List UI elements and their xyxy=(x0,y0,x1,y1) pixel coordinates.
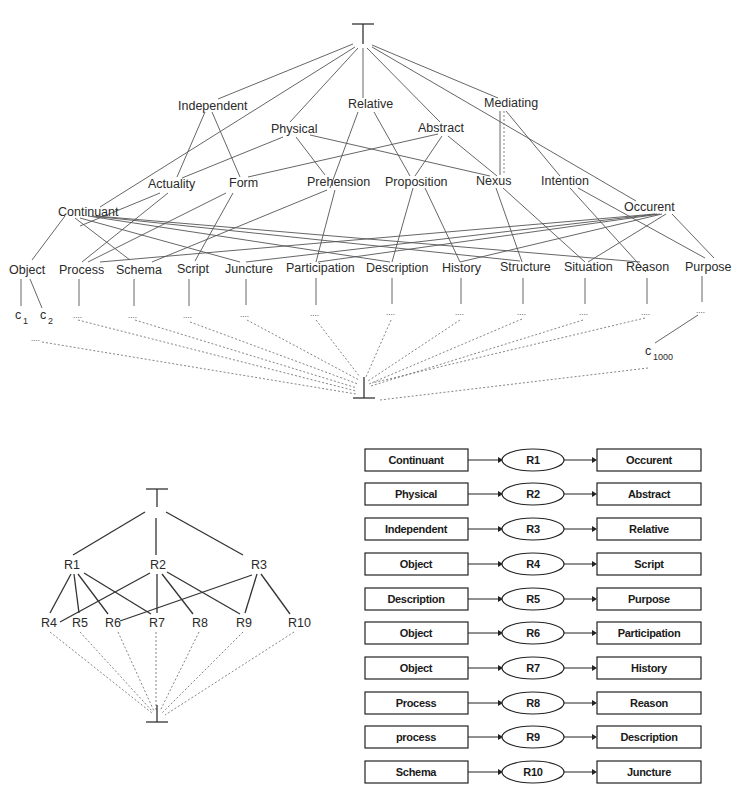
relation-top-symbol xyxy=(146,489,168,507)
relation-id: R8 xyxy=(526,697,540,709)
relation-id: R1 xyxy=(526,454,540,466)
node-structure: Structure xyxy=(500,260,551,274)
node-object: Object xyxy=(9,263,46,277)
svg-text:....: .... xyxy=(517,308,526,317)
svg-text:1000: 1000 xyxy=(653,352,673,362)
relation-target: History xyxy=(631,662,668,674)
relation-target: Abstract xyxy=(628,488,671,500)
svg-text:....: .... xyxy=(73,311,82,320)
svg-text:....: .... xyxy=(455,308,464,317)
relation-source: Description xyxy=(387,593,445,605)
relation-node-r8: R8 xyxy=(192,616,208,630)
bottom-symbol xyxy=(353,377,375,398)
instance-ellipses: .... .... .... .... .... .... .... .... … xyxy=(31,306,705,343)
node-description: Description xyxy=(366,261,429,275)
svg-text:....: .... xyxy=(183,311,192,320)
relation-row: Continuant R1 Occurent xyxy=(365,449,701,471)
relation-id: R9 xyxy=(526,731,540,743)
diagram-canvas: Independent Relative Mediating Physical … xyxy=(0,0,741,802)
node-occurent: Occurent xyxy=(624,200,675,214)
relation-row: process R9 Description xyxy=(365,726,701,748)
svg-text:....: .... xyxy=(696,306,705,315)
node-script: Script xyxy=(177,262,209,276)
node-participation: Participation xyxy=(286,261,355,275)
upper-lattice: Independent Relative Mediating Physical … xyxy=(9,24,732,400)
instance-c2: c 2 xyxy=(40,308,53,326)
relation-id: R2 xyxy=(526,488,540,500)
relation-source: Independent xyxy=(385,523,448,535)
svg-text:....: .... xyxy=(31,334,40,343)
relation-node-r6: R6 xyxy=(105,616,121,630)
relation-target: Participation xyxy=(618,627,681,639)
relation-row: Object R4 Script xyxy=(365,553,701,575)
node-prehension: Prehension xyxy=(307,175,370,189)
svg-text:c: c xyxy=(15,308,21,322)
instance-c1000: c 1000 xyxy=(645,344,673,362)
node-process: Process xyxy=(59,263,104,277)
svg-text:....: .... xyxy=(128,311,137,320)
top-symbol xyxy=(352,24,374,44)
relation-source: process xyxy=(396,731,436,743)
relation-row: Schema R10 Juncture xyxy=(365,761,701,783)
mid-edges xyxy=(177,111,705,272)
relation-target: Script xyxy=(634,558,664,570)
relation-source: Object xyxy=(400,558,433,570)
relation-source: Object xyxy=(400,627,433,639)
svg-text:2: 2 xyxy=(48,316,53,326)
node-independent: Independent xyxy=(178,99,248,113)
node-abstract: Abstract xyxy=(418,121,464,135)
svg-text:c: c xyxy=(645,344,651,358)
relation-node-r5: R5 xyxy=(72,616,88,630)
node-juncture: Juncture xyxy=(225,262,273,276)
node-history: History xyxy=(442,261,482,275)
svg-text:....: .... xyxy=(240,310,249,319)
instance-edges xyxy=(21,276,702,343)
relation-id: R4 xyxy=(526,558,541,570)
node-intention: Intention xyxy=(541,174,589,188)
node-purpose: Purpose xyxy=(685,260,732,274)
node-physical: Physical xyxy=(271,122,318,136)
svg-text:....: .... xyxy=(310,309,319,318)
relation-node-r1: R1 xyxy=(64,558,80,572)
relation-target: Reason xyxy=(630,697,669,709)
node-actuality: Actuality xyxy=(148,177,196,191)
svg-text:c: c xyxy=(40,308,46,322)
relation-source: Schema xyxy=(396,766,438,778)
relation-target: Purpose xyxy=(628,593,670,605)
node-mediating: Mediating xyxy=(484,96,538,110)
relation-lattice: R1 R2 R3 R4 R5 R6 R7 R8 R9 R10 xyxy=(41,489,311,722)
node-continuant: Continuant xyxy=(58,205,119,219)
relation-target: Description xyxy=(620,731,678,743)
relation-source: Object xyxy=(400,662,433,674)
node-form: Form xyxy=(229,176,258,190)
node-reason: Reason xyxy=(626,260,669,274)
node-situation: Situation xyxy=(564,260,613,274)
relation-node-r7: R7 xyxy=(149,616,165,630)
relations-table: Continuant R1 Occurent Physical R2 Abstr… xyxy=(365,449,701,783)
instance-c1: c 1 xyxy=(15,308,28,326)
svg-text:....: .... xyxy=(579,308,588,317)
node-relative: Relative xyxy=(348,97,393,111)
svg-text:....: .... xyxy=(641,308,650,317)
node-schema: Schema xyxy=(116,263,162,277)
relation-node-r2: R2 xyxy=(150,558,166,572)
relation-target: Occurent xyxy=(626,454,673,466)
relation-id: R6 xyxy=(526,627,540,639)
svg-text:....: .... xyxy=(386,308,395,317)
bottom-dashed-edges xyxy=(42,318,648,400)
relation-id: R10 xyxy=(523,766,542,778)
relation-target: Juncture xyxy=(627,766,671,778)
relation-node-r9: R9 xyxy=(236,616,252,630)
relation-node-r3: R3 xyxy=(251,558,267,572)
lower-edges xyxy=(32,188,714,262)
relation-source: Physical xyxy=(395,488,437,500)
relation-row: Physical R2 Abstract xyxy=(365,483,701,505)
relation-target: Relative xyxy=(629,523,669,535)
relation-id: R5 xyxy=(526,593,540,605)
relation-id: R7 xyxy=(526,662,540,674)
relation-source: Process xyxy=(396,697,437,709)
relation-source: Continuant xyxy=(388,454,444,466)
relation-node-r10: R10 xyxy=(288,616,311,630)
relation-id: R3 xyxy=(526,523,540,535)
relation-bottom-symbol xyxy=(146,705,168,722)
